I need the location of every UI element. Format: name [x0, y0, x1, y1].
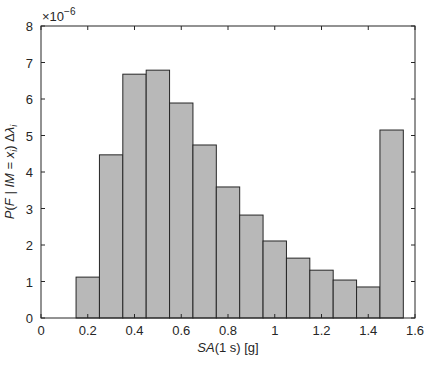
histogram-bar: [333, 280, 356, 318]
histogram-bar: [357, 287, 380, 318]
histogram-bar: [193, 145, 216, 318]
histogram-bar: [99, 155, 122, 318]
x-tick-label: 1.6: [406, 323, 424, 338]
histogram-bar: [380, 130, 403, 318]
histogram-bar: [76, 277, 99, 318]
x-tick-label: 1.2: [312, 323, 330, 338]
histogram-bar: [286, 258, 309, 318]
x-tick-label: 0.2: [79, 323, 97, 338]
histogram-bar: [263, 241, 286, 318]
histogram-bar: [240, 215, 263, 318]
histogram-bar: [216, 187, 239, 318]
histogram-chart: 00.20.40.60.811.21.41.6 012345678 ×10−6 …: [0, 0, 430, 367]
x-tick-label: 1: [271, 323, 278, 338]
histogram-bar: [310, 270, 333, 318]
y-tick-label: 4: [26, 165, 33, 180]
y-tick-label: 3: [26, 202, 33, 217]
y-tick-label: 7: [26, 56, 33, 71]
y-tick-label: 2: [26, 238, 33, 253]
x-tick-label: 1.4: [359, 323, 377, 338]
histogram-bars: [76, 70, 403, 318]
y-axis-label: P(F | IM = xi) Δλi: [2, 124, 19, 219]
x-tick-label: 0.6: [172, 323, 190, 338]
histogram-bar: [146, 70, 169, 318]
y-multiplier: ×10−6: [42, 6, 76, 24]
y-tick-label: 5: [26, 129, 33, 144]
y-tick-label: 0: [26, 311, 33, 326]
histogram-bar: [170, 103, 193, 318]
x-tick-label: 0: [37, 323, 44, 338]
x-tick-label: 0.4: [125, 323, 143, 338]
x-axis-label: SA(1 s) [g]: [197, 340, 258, 355]
y-tick-label: 8: [26, 19, 33, 34]
y-tick-label: 1: [26, 275, 33, 290]
y-tick-label: 6: [26, 92, 33, 107]
x-tick-label: 0.8: [219, 323, 237, 338]
histogram-bar: [123, 74, 146, 318]
